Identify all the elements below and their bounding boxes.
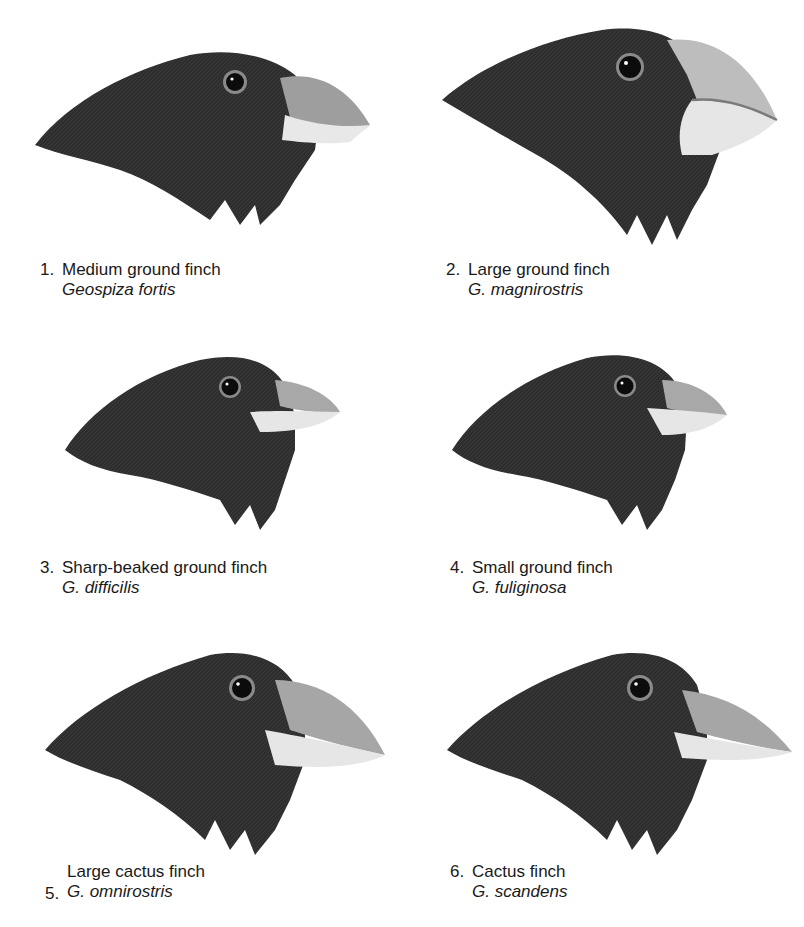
finch-panel-6: 6.Cactus finch G. scandens bbox=[402, 600, 804, 927]
finch-scientific-name: G. omnirostris bbox=[67, 882, 173, 901]
finch-label-1: 1.Medium ground finch Geospiza fortis bbox=[40, 260, 221, 300]
finch-head-illustration-5 bbox=[40, 640, 390, 855]
finch-number: 1. bbox=[40, 260, 62, 280]
finch-scientific-name: G. fuliginosa bbox=[450, 578, 613, 598]
finch-scientific-name: G. magnirostris bbox=[446, 280, 610, 300]
finch-panel-4: 4.Small ground finch G. fuliginosa bbox=[402, 300, 804, 600]
finch-panel-5: Large cactus finch 5.G. omnirostris bbox=[0, 600, 402, 927]
finch-head-illustration-1 bbox=[30, 30, 380, 230]
finch-number: 4. bbox=[450, 558, 472, 578]
finch-label-4: 4.Small ground finch G. fuliginosa bbox=[450, 558, 613, 598]
finch-panel-1: 1.Medium ground finch Geospiza fortis bbox=[0, 0, 402, 300]
finch-number: 3. bbox=[40, 558, 62, 578]
finch-head-illustration-3 bbox=[60, 340, 350, 530]
finch-panel-2: 2.Large ground finch G. magnirostris bbox=[402, 0, 804, 300]
finch-common-name: Sharp-beaked ground finch bbox=[62, 558, 267, 577]
finch-scientific-name: G. difficilis bbox=[40, 578, 267, 598]
finch-common-name: Cactus finch bbox=[472, 862, 566, 881]
finch-scientific-name: Geospiza fortis bbox=[40, 280, 221, 300]
finch-head-illustration-4 bbox=[447, 340, 737, 530]
finch-common-name: Small ground finch bbox=[472, 558, 613, 577]
finch-panel-3: 3.Sharp-beaked ground finch G. difficili… bbox=[0, 300, 402, 600]
finch-number: 5. bbox=[45, 884, 67, 904]
finch-label-2: 2.Large ground finch G. magnirostris bbox=[446, 260, 610, 300]
finch-head-illustration-6 bbox=[442, 640, 804, 855]
finch-head-illustration-2 bbox=[442, 5, 804, 250]
finch-common-name: Large cactus finch bbox=[45, 862, 205, 882]
finch-number: 2. bbox=[446, 260, 468, 280]
finch-scientific-name: G. scandens bbox=[450, 882, 567, 902]
finch-common-name: Medium ground finch bbox=[62, 260, 221, 279]
finch-label-5: Large cactus finch 5.G. omnirostris bbox=[45, 862, 205, 904]
finch-label-6: 6.Cactus finch G. scandens bbox=[450, 862, 567, 902]
finch-number: 6. bbox=[450, 862, 472, 882]
finch-label-3: 3.Sharp-beaked ground finch G. difficili… bbox=[40, 558, 267, 598]
finch-common-name: Large ground finch bbox=[468, 260, 610, 279]
